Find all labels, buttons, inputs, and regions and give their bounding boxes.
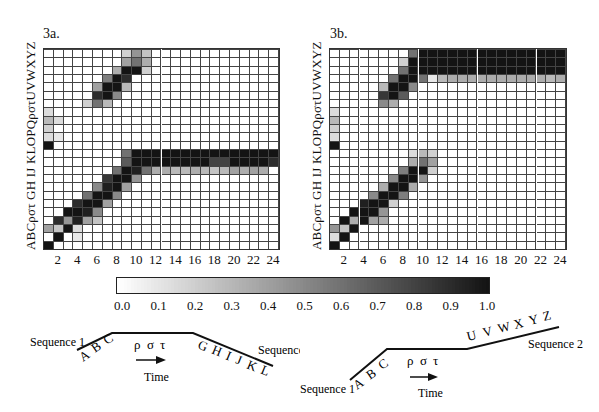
heatmap-cell	[132, 49, 142, 57]
heatmap-cell	[142, 241, 152, 249]
heatmap-cell	[152, 132, 162, 140]
heatmap-cell	[73, 124, 83, 132]
heatmap-cell	[438, 99, 448, 107]
heatmap-cell	[73, 166, 83, 174]
heatmap-cell	[73, 224, 83, 232]
heatmap-cell	[142, 66, 152, 74]
heatmap-cell	[93, 107, 103, 115]
heatmap-cell	[527, 207, 537, 215]
heatmap-cell	[350, 116, 360, 124]
heatmap-cell	[181, 91, 191, 99]
heatmap-cell	[428, 116, 438, 124]
heatmap-cell	[113, 107, 123, 115]
heatmap-cell	[54, 124, 64, 132]
heatmap-cell	[389, 116, 399, 124]
heatmap-cell	[340, 157, 350, 165]
heatmap-cell	[497, 224, 507, 232]
heatmap-cell	[546, 157, 556, 165]
heatmap-cell	[54, 49, 64, 57]
heatmap-cell	[340, 99, 350, 107]
heatmap-cell	[191, 191, 201, 199]
heatmap-cell	[83, 199, 93, 207]
heatmap-cell	[369, 149, 379, 157]
heatmap-cell	[478, 141, 488, 149]
heatmap-cell	[556, 66, 566, 74]
heatmap-cell	[132, 141, 142, 149]
heatmap-cell	[54, 191, 64, 199]
heatmap-cell	[73, 91, 83, 99]
heatmap-cell	[379, 74, 389, 82]
heatmap-cell	[201, 216, 211, 224]
heatmap-cell	[330, 66, 340, 74]
heatmap-cell	[438, 182, 448, 190]
heatmap-cell	[230, 241, 240, 249]
heatmap-cell	[142, 157, 152, 165]
heatmap-cell	[537, 99, 547, 107]
heatmap-cell	[379, 99, 389, 107]
heatmap-cell	[93, 157, 103, 165]
heatmap-cell	[330, 132, 340, 140]
heatmap-cell	[350, 149, 360, 157]
heatmap-cell	[340, 191, 350, 199]
heatmap-cell	[468, 224, 478, 232]
heatmap-cell	[517, 82, 527, 90]
x-tick-label: 12	[436, 252, 449, 268]
letter-I: I	[224, 348, 234, 364]
heatmap-cell	[113, 166, 123, 174]
heatmap-cell	[142, 141, 152, 149]
heatmap-cell	[340, 166, 350, 174]
colorbar-tick-label: 0.2	[187, 298, 203, 314]
heatmap-cell	[399, 216, 409, 224]
heatmap-cell	[103, 166, 113, 174]
heatmap-cell	[181, 141, 191, 149]
heatmap-cell	[340, 49, 350, 57]
heatmap-cell	[468, 57, 478, 65]
heatmap-cell	[142, 149, 152, 157]
heatmap-cell	[497, 107, 507, 115]
heatmap-cell	[191, 157, 201, 165]
heatmap-cell	[487, 174, 497, 182]
heatmap-cell	[360, 66, 370, 74]
heatmap-cell	[191, 107, 201, 115]
heatmap-cell	[487, 116, 497, 124]
heatmap-cell	[517, 182, 527, 190]
heatmap-cell	[448, 207, 458, 215]
heatmap-cell	[360, 49, 370, 57]
heatmap-cell	[527, 166, 537, 174]
heatmap-cell	[458, 191, 468, 199]
heatmap-cell	[546, 107, 556, 115]
x-tick-label: 8	[113, 252, 120, 268]
heatmap-cell	[191, 57, 201, 65]
heatmap-cell	[537, 149, 547, 157]
heatmap-cell	[350, 107, 360, 115]
heatmap-cell	[73, 174, 83, 182]
heatmap-cell	[240, 216, 250, 224]
heatmap-cell	[220, 232, 230, 240]
heatmap-cell	[44, 124, 54, 132]
heatmap-cell	[419, 124, 429, 132]
heatmap-cell	[350, 57, 360, 65]
heatmap-cell	[438, 157, 448, 165]
heatmap-cell	[201, 116, 211, 124]
heatmap-cell	[556, 149, 566, 157]
heatmap-cell	[409, 232, 419, 240]
heatmap-cell	[458, 116, 468, 124]
heatmap-cell	[537, 157, 547, 165]
heatmap-cell	[428, 132, 438, 140]
heatmap-cell	[220, 157, 230, 165]
heatmap-cell	[83, 124, 93, 132]
heatmap-cell	[438, 57, 448, 65]
heatmap-cell	[389, 49, 399, 57]
heatmap-cell	[517, 174, 527, 182]
heatmap-cell	[537, 132, 547, 140]
heatmap-cell	[269, 182, 279, 190]
heatmap-cell	[507, 99, 517, 107]
heatmap-cell	[181, 132, 191, 140]
heatmap-cell	[152, 107, 162, 115]
heatmap-cell	[240, 124, 250, 132]
heatmap-cell	[497, 166, 507, 174]
x-tick-label: 24	[554, 252, 567, 268]
heatmap-cell	[142, 74, 152, 82]
heatmap-cell	[507, 216, 517, 224]
heatmap-cell	[448, 49, 458, 57]
